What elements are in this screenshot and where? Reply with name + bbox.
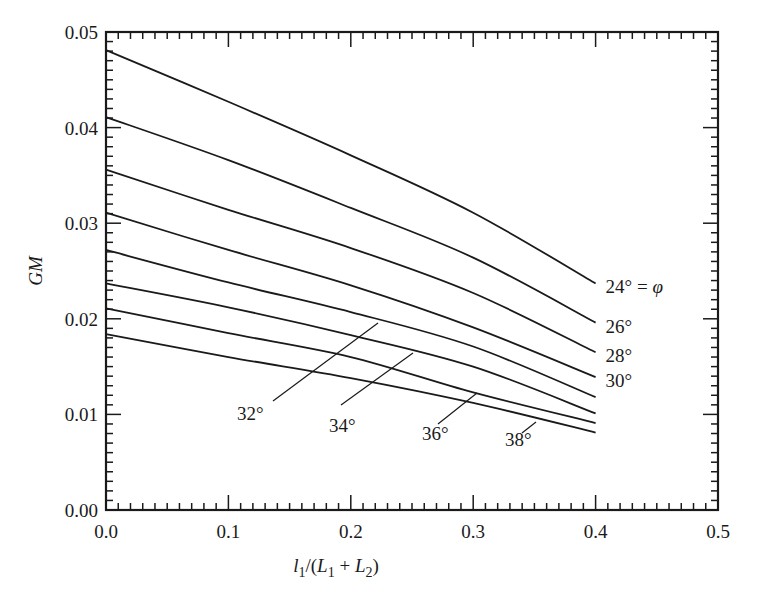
x-tick-label: 0.1 — [217, 521, 241, 542]
y-tick-label: 0.03 — [65, 213, 98, 234]
y-tick-label: 0.01 — [65, 404, 98, 425]
y-axis-title: GM — [25, 255, 46, 286]
curve-phi-26 — [106, 117, 596, 323]
curves — [106, 50, 596, 432]
x-axis-title: l1/(L1 + L2) — [293, 555, 379, 580]
plot-frame — [106, 32, 718, 510]
leader-label: 32° — [237, 403, 264, 424]
axis-ticks — [106, 32, 718, 510]
curve-end-label: 28° — [606, 345, 633, 366]
curve-phi-30 — [106, 213, 596, 377]
x-tick-label: 0.3 — [461, 521, 485, 542]
curve-end-label: 26° — [606, 316, 633, 337]
x-tick-label: 0.5 — [706, 521, 730, 542]
plot-border — [106, 32, 718, 510]
curve-labels: 24° = φ26°28°30°32°34°36°38° — [237, 276, 663, 450]
x-tick-label: 0.0 — [94, 521, 118, 542]
leader-label: 38° — [505, 429, 532, 450]
curve-phi-28 — [106, 170, 596, 353]
leader-label: 36° — [422, 423, 449, 444]
y-tick-label: 0.04 — [65, 118, 99, 139]
x-tick-label: 0.2 — [339, 521, 363, 542]
y-tick-label: 0.02 — [65, 309, 98, 330]
curve-end-label: 30° — [606, 370, 633, 391]
leader-label: 34° — [329, 415, 356, 436]
y-tick-label: 0.05 — [65, 22, 98, 43]
y-tick-label: 0.00 — [65, 500, 98, 521]
x-tick-label: 0.4 — [584, 521, 608, 542]
gm-vs-length-ratio-chart: 0.00.10.20.30.40.50.000.010.020.030.040.… — [0, 0, 757, 608]
curve-end-label: 24° = φ — [606, 276, 663, 297]
leader-line — [438, 393, 477, 424]
